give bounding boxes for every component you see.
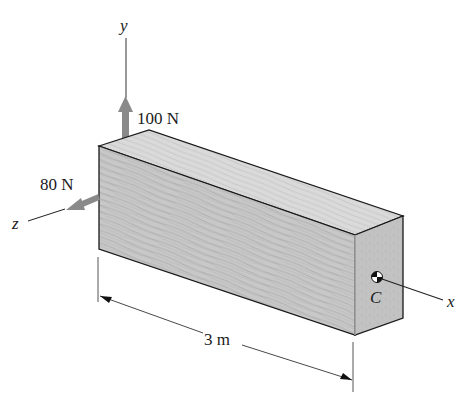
dimension-arrow-right-icon bbox=[340, 373, 352, 380]
y-axis-label: y bbox=[118, 16, 128, 35]
centroid-marker-icon bbox=[372, 272, 383, 283]
centroid-label: C bbox=[370, 288, 382, 307]
dimension-line-right bbox=[242, 345, 352, 380]
z-axis-label: z bbox=[11, 214, 19, 233]
beam-diagram: y 100 N 80 N z C x 3 m bbox=[0, 0, 469, 416]
force-arrow-100n bbox=[118, 96, 133, 140]
dimension-line-left bbox=[100, 296, 203, 333]
force-arrow-80n bbox=[66, 197, 99, 210]
dimension-arrow-left-icon bbox=[100, 296, 112, 303]
dimension-label: 3 m bbox=[204, 330, 230, 349]
x-axis-label: x bbox=[446, 292, 455, 311]
force-label-80n: 80 N bbox=[40, 175, 74, 194]
z-axis-line bbox=[28, 209, 65, 221]
force-label-100n: 100 N bbox=[137, 109, 179, 128]
